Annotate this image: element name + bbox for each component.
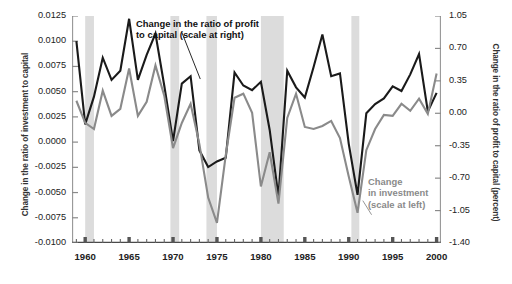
x-tick-label: 2000 [415,251,459,262]
y-tick-label-left: -0.0050 [14,187,66,197]
x-tick-label: 1970 [151,251,195,262]
y-tick-label-left: -0.0075 [14,212,66,222]
annotation-investment-series: Change in investment (scale at left) [368,176,428,210]
y-tick-label-right: -0.35 [449,140,501,150]
y-tick-label-right: 0.00 [449,107,501,117]
x-tick-label: 1975 [195,251,239,262]
recession-band [261,16,284,243]
y-tick-label-right: -1.05 [449,205,501,215]
y-tick-label-left: 0.0075 [14,60,66,70]
y-tick-label-right: 1.05 [449,10,501,20]
y-tick-label-left: 0.0000 [14,136,66,146]
x-tick-label: 1960 [63,251,107,262]
y-tick-label-left: 0.0050 [14,86,66,96]
y-tick-label-right: -1.40 [449,237,501,247]
y-tick-label-right: 0.35 [449,75,501,85]
x-tick-label: 1990 [327,251,371,262]
series-line-right [76,19,436,197]
y-tick-label-left: -0.0025 [14,161,66,171]
x-tick-label: 1985 [283,251,327,262]
annotation-profit-series: Change in the ratio of profit to capital… [136,18,259,41]
y-tick-label-left: 0.0100 [14,35,66,45]
x-tick-label: 1995 [371,251,415,262]
y-tick-label-left: 0.0125 [14,10,66,20]
y-tick-label-right: -0.70 [449,172,501,182]
x-tick-label: 1980 [239,251,283,262]
chart-container: Change in the ratio of investment to cap… [0,0,512,284]
y-tick-label-left: 0.0025 [14,111,66,121]
y-tick-label-right: 0.70 [449,42,501,52]
x-tick-label: 1965 [107,251,151,262]
y-tick-label-left: -0.0100 [14,237,66,247]
recession-band [85,16,94,243]
